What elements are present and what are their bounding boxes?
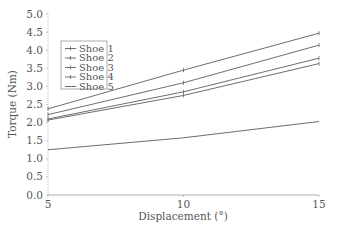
legend-label: Shoe 5: [79, 81, 114, 92]
x-tick-label: 10: [177, 198, 190, 210]
y-tick-label: 1.0: [26, 152, 43, 164]
y-tick-label: 4.5: [26, 26, 43, 38]
x-tick-label: 5: [45, 198, 52, 210]
legend: Shoe 1Shoe 2Shoe 3Shoe 4Shoe 5: [61, 41, 114, 92]
y-tick-label: 2.0: [26, 116, 43, 128]
y-tick-label: 1.5: [26, 134, 43, 146]
y-tick-label: 3.5: [26, 62, 43, 74]
y-axis-ticks: 0.00.51.01.52.02.53.03.54.04.55.0: [26, 8, 48, 201]
line-chart: 0.00.51.01.52.02.53.03.54.04.55.0 51015 …: [0, 0, 337, 232]
x-tick-label: 15: [312, 198, 325, 210]
y-tick-label: 0.5: [26, 170, 43, 182]
series-line-shoe-5: [48, 122, 319, 150]
y-tick-label: 5.0: [26, 8, 43, 20]
y-tick-label: 0.0: [26, 189, 43, 201]
y-tick-label: 4.0: [26, 44, 43, 56]
y-tick-label: 3.0: [26, 80, 43, 92]
y-tick-label: 2.5: [26, 98, 43, 110]
x-axis-title: Displacement (°): [138, 210, 228, 222]
x-axis-ticks: 51015: [45, 195, 326, 210]
y-axis-title: Torque (Nm): [6, 70, 18, 138]
